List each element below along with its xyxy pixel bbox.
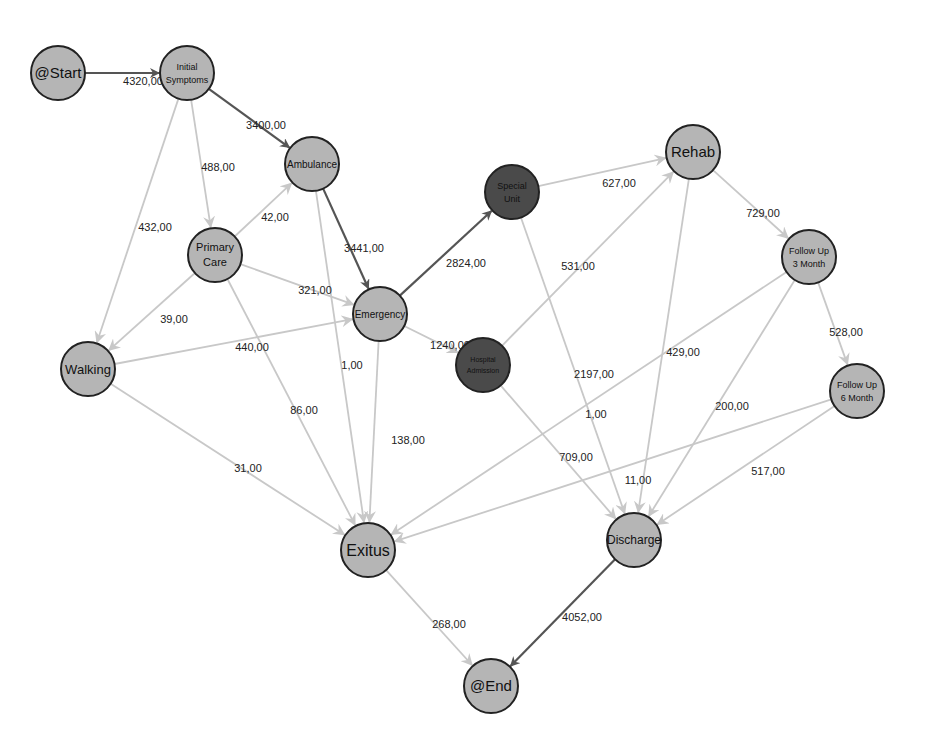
node-label: @Start (35, 64, 83, 81)
node-circle[interactable] (456, 338, 510, 392)
edge-label-rehab-to-discharge: 11,00 (625, 474, 652, 486)
node-fu3[interactable]: Follow Up3 Month (782, 230, 836, 284)
node-label: Exitus (346, 542, 390, 559)
node-fu6[interactable]: Follow Up6 Month (830, 364, 884, 418)
nodes-layer: @StartInitialSymptomsAmbulancePrimaryCar… (31, 46, 884, 713)
edge-label-discharge-to-end: 4052,00 (562, 611, 602, 623)
edge-label-fu6-to-exitus: 1,00 (585, 408, 606, 420)
edge-label-fu3-to-fu6: 528,00 (829, 326, 863, 338)
node-circle[interactable] (160, 46, 214, 100)
edge-walking-to-emergency[interactable] (115, 319, 353, 364)
node-ambulance[interactable]: Ambulance (285, 137, 339, 191)
node-emergency[interactable]: Emergency (353, 287, 407, 341)
node-hospital[interactable]: HospitalAdmission (456, 338, 510, 392)
node-rehab[interactable]: Rehab (666, 125, 720, 179)
edge-label-rehab-to-fu3: 729,00 (746, 207, 780, 219)
edge-label-initial-to-ambulance: 3400,00 (246, 119, 286, 131)
edge-primary-to-exitus[interactable] (227, 279, 355, 525)
node-end[interactable]: @End (464, 659, 518, 713)
node-walking[interactable]: Walking (61, 342, 115, 396)
edge-label-emergency-to-exitus: 138,00 (391, 434, 425, 446)
node-exitus[interactable]: Exitus (341, 523, 395, 577)
edge-primary-to-walking[interactable] (109, 273, 195, 350)
edge-label-exitus-to-end: 268,00 (432, 618, 466, 630)
node-label: Follow Up (789, 246, 829, 256)
edge-label-primary-to-ambulance: 42,00 (261, 211, 289, 223)
node-special[interactable]: SpecialUnit (485, 165, 539, 219)
edge-rehab-to-fu3[interactable] (713, 170, 788, 238)
node-label: Rehab (671, 143, 715, 160)
edge-emergency-to-special[interactable] (400, 211, 492, 296)
edge-hospital-to-discharge[interactable] (501, 385, 616, 518)
node-circle[interactable] (485, 165, 539, 219)
edge-primary-to-ambulance[interactable] (235, 183, 292, 236)
node-label: Ambulance (287, 159, 337, 170)
node-label: Admission (467, 367, 499, 374)
edge-label-fu6-to-discharge: 517,00 (751, 465, 785, 477)
edge-label-emergency-to-special: 2824,00 (446, 257, 486, 269)
node-start[interactable]: @Start (31, 46, 85, 100)
node-label: Unit (504, 194, 521, 204)
node-label: 3 Month (793, 259, 826, 269)
node-circle[interactable] (830, 364, 884, 418)
node-label: Symptoms (166, 75, 209, 85)
edge-label-initial-to-walking: 432,00 (138, 221, 172, 233)
node-label: Emergency (355, 309, 406, 320)
edge-label-ambulance-to-exitus: 1,00 (341, 359, 362, 371)
node-initial[interactable]: InitialSymptoms (160, 46, 214, 100)
node-label: Hospital (470, 356, 496, 364)
edge-label-hospital-to-discharge: 709,00 (559, 451, 593, 463)
node-label: Walking (65, 362, 111, 377)
node-discharge[interactable]: Discharge (607, 513, 661, 567)
edge-label-special-to-discharge: 2197,00 (574, 368, 614, 380)
edge-label-fu3-to-discharge: 200,00 (715, 400, 749, 412)
edge-ambulance-to-exitus[interactable] (316, 191, 364, 523)
node-label: @End (470, 677, 512, 694)
edge-label-special-to-rehab: 627,00 (602, 177, 636, 189)
node-label: Initial (176, 62, 197, 72)
edge-label-hospital-to-rehab: 531,00 (561, 260, 595, 272)
edge-fu6-to-discharge[interactable] (657, 406, 834, 524)
edge-label-primary-to-walking: 39,00 (160, 313, 188, 325)
edge-label-primary-to-exitus: 86,00 (290, 404, 318, 416)
node-label: Primary (196, 241, 234, 253)
node-circle[interactable] (782, 230, 836, 284)
edge-label-fu3-to-exitus: 429,00 (666, 346, 700, 358)
edge-label-walking-to-exitus: 31,00 (234, 462, 262, 474)
edge-label-ambulance-to-emergency: 3441,00 (344, 242, 384, 254)
edge-label-walking-to-emergency: 440,00 (235, 341, 269, 353)
edge-label-start-to-initial: 4320,00 (123, 75, 163, 87)
edge-label-primary-to-emergency: 321,00 (298, 284, 332, 296)
node-label: Follow Up (837, 380, 877, 390)
edge-primary-to-emergency[interactable] (240, 264, 353, 304)
node-circle[interactable] (188, 228, 242, 282)
node-label: Discharge (607, 533, 661, 547)
edge-emergency-to-exitus[interactable] (369, 341, 378, 522)
edge-ambulance-to-emergency[interactable] (323, 189, 368, 289)
edge-fu3-to-fu6[interactable] (818, 282, 847, 364)
node-label: Special (497, 181, 527, 191)
process-graph: 4320,003400,00488,00432,0042,00321,0039,… (0, 0, 934, 742)
edge-label-initial-to-primary: 488,00 (201, 161, 235, 173)
node-primary[interactable]: PrimaryCare (188, 228, 242, 282)
node-label: 6 Month (841, 393, 874, 403)
node-label: Care (203, 256, 227, 268)
